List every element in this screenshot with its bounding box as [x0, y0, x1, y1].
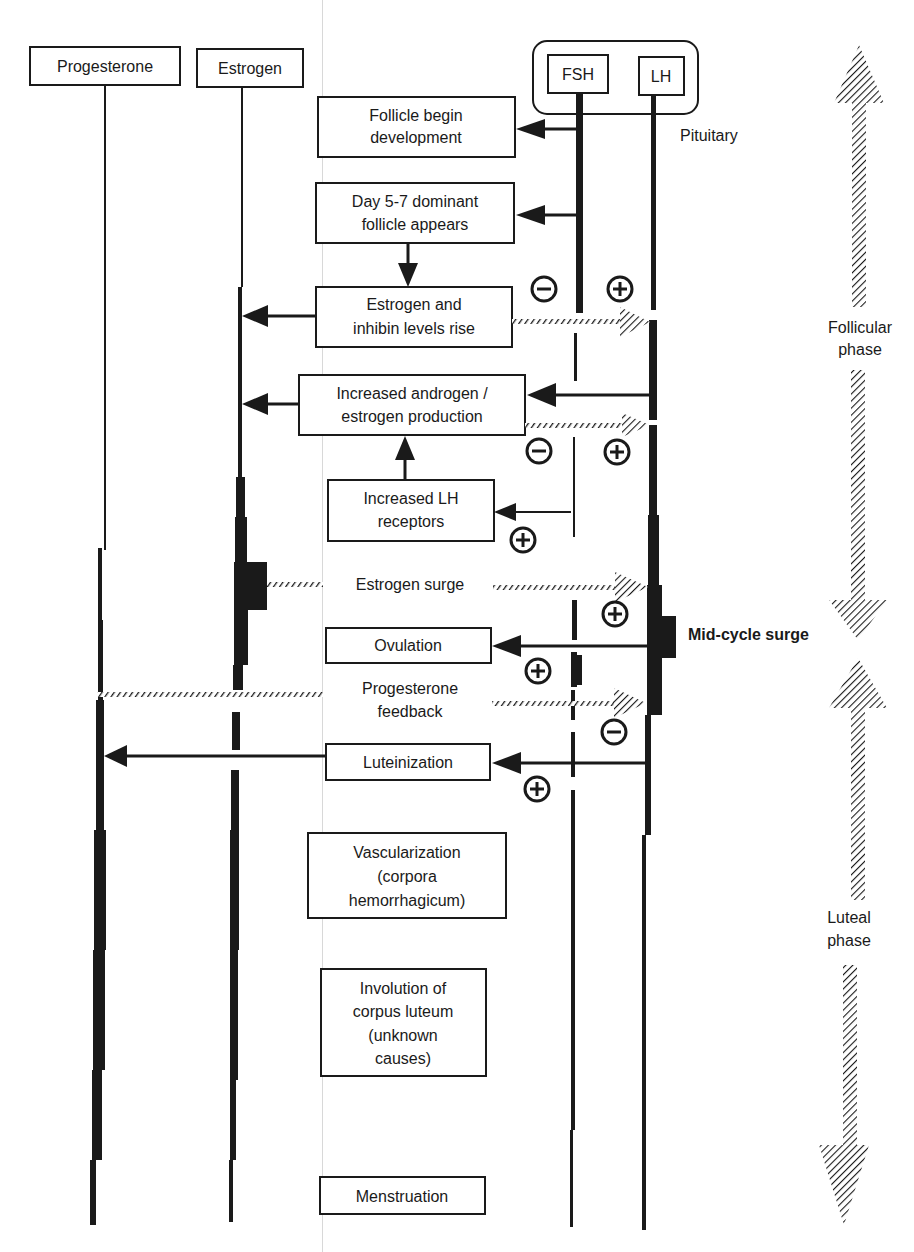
event-menstruation: Menstruation	[320, 1177, 485, 1214]
event-estrogen-inhibin: Estrogen and inhibin levels rise	[316, 287, 512, 347]
minus-sign-icon	[532, 277, 556, 301]
svg-text:estrogen production: estrogen production	[341, 408, 482, 425]
follicular-phase-label-line2: phase	[838, 341, 882, 358]
svg-text:Follicle begin: Follicle begin	[369, 107, 462, 124]
estrogen-level-line	[229, 87, 267, 1222]
event-vascularization: Vascularization (corpora hemorrhagicum)	[308, 833, 506, 918]
feedback-signs	[511, 277, 632, 801]
event-ovulation: Ovulation	[326, 628, 491, 663]
svg-text:Vascularization: Vascularization	[353, 844, 460, 861]
event-androgen-estrogen: Increased androgen / estrogen production	[299, 375, 525, 435]
event-follicle-begin: Follicle begin development	[318, 97, 515, 157]
event-progesterone-feedback-line2: feedback	[378, 703, 444, 720]
mid-cycle-surge-label: Mid-cycle surge	[688, 626, 809, 643]
svg-text:Day 5-7 dominant: Day 5-7 dominant	[352, 193, 479, 210]
progesterone-header: Progesterone	[30, 47, 180, 85]
svg-text:Luteinization: Luteinization	[363, 754, 453, 771]
svg-text:development: development	[370, 129, 462, 146]
lh-header-label: LH	[651, 68, 671, 85]
estrogen-header-label: Estrogen	[218, 60, 282, 77]
plus-sign-icon	[526, 659, 550, 683]
svg-text:causes): causes)	[375, 1050, 431, 1067]
plus-sign-icon	[608, 277, 632, 301]
svg-text:(unknown: (unknown	[368, 1027, 437, 1044]
svg-text:Estrogen and: Estrogen and	[366, 296, 461, 313]
luteal-phase-label-line1: Luteal	[827, 909, 871, 926]
follicular-phase-label-line1: Follicular	[828, 319, 893, 336]
svg-text:inhibin levels rise: inhibin levels rise	[353, 320, 475, 337]
estrogen-header: Estrogen	[197, 49, 303, 87]
menstrual-cycle-diagram: Progesterone Estrogen FSH LH Pituitary	[0, 0, 914, 1252]
svg-text:Involution of: Involution of	[360, 980, 447, 997]
pituitary-group: FSH LH	[533, 41, 698, 114]
svg-text:follicle appears: follicle appears	[362, 216, 469, 233]
svg-text:Ovulation: Ovulation	[374, 637, 442, 654]
event-dominant-follicle: Day 5-7 dominant follicle appears	[316, 183, 514, 243]
svg-text:corpus luteum: corpus luteum	[353, 1003, 454, 1020]
svg-text:Increased LH: Increased LH	[363, 490, 458, 507]
event-lh-receptors: Increased LH receptors	[328, 480, 494, 541]
plus-sign-icon	[603, 602, 627, 626]
event-involution: Involution of corpus luteum (unknown cau…	[321, 969, 486, 1076]
fsh-header-label: FSH	[562, 66, 594, 83]
pituitary-label: Pituitary	[680, 127, 738, 144]
minus-sign-icon	[602, 720, 626, 744]
event-progesterone-feedback-line1: Progesterone	[362, 680, 458, 697]
fsh-level-line	[570, 93, 583, 1227]
svg-text:receptors: receptors	[378, 513, 445, 530]
event-luteinization: Luteinization	[326, 744, 490, 780]
plus-sign-icon	[605, 440, 629, 464]
progesterone-header-label: Progesterone	[57, 58, 153, 75]
plus-sign-icon	[525, 777, 549, 801]
event-estrogen-surge: Estrogen surge	[356, 576, 465, 593]
svg-text:Menstruation: Menstruation	[356, 1188, 449, 1205]
minus-sign-icon	[527, 439, 551, 463]
progesterone-level-line	[90, 85, 106, 1225]
lh-level-line	[642, 95, 676, 1230]
luteal-phase-label-line2: phase	[827, 932, 871, 949]
svg-text:hemorrhagicum): hemorrhagicum)	[349, 892, 465, 909]
svg-text:Increased androgen /: Increased androgen /	[336, 385, 488, 402]
svg-text:(corpora: (corpora	[377, 868, 437, 885]
plus-sign-icon	[511, 528, 535, 552]
